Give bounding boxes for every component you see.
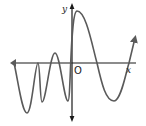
function-curve: [14, 11, 135, 113]
function-graph: y x O: [0, 0, 146, 126]
y-axis-label: y: [61, 4, 68, 14]
curve-left-arrow-icon: [10, 59, 16, 67]
origin-label: O: [74, 65, 82, 76]
x-axis-label: x: [126, 65, 131, 75]
